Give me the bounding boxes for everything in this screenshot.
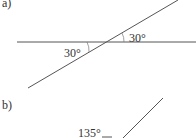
transversal-line-a [28, 0, 178, 88]
angle-arc-left [87, 42, 89, 52]
angle-label-left: 30° [64, 47, 81, 59]
angle-label-b: 135° [78, 127, 101, 138]
angle-diagram: a) 30° 30° b) 135° [0, 0, 196, 138]
diagram-lines [0, 0, 196, 138]
part-b-label: b) [2, 99, 12, 111]
angle-arc-right [122, 33, 124, 42]
ray-line-b [123, 98, 163, 138]
angle-label-right: 30° [129, 32, 146, 44]
part-a-label: a) [2, 0, 11, 9]
